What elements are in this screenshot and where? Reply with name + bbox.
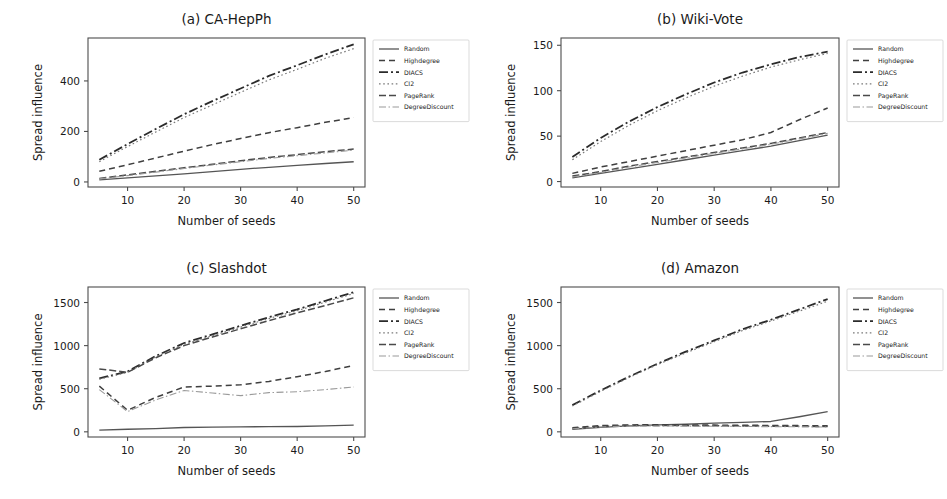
legend-label-random[interactable]: Random bbox=[404, 294, 430, 301]
x-tick-label: 20 bbox=[651, 194, 664, 206]
y-axis-label: Spread influence bbox=[504, 314, 518, 411]
plot-frame bbox=[561, 38, 839, 187]
x-axis-label: Number of seeds bbox=[651, 214, 749, 228]
y-tick-label: 1000 bbox=[53, 340, 80, 352]
y-tick-label: 0 bbox=[546, 426, 553, 438]
x-tick-label: 20 bbox=[177, 194, 190, 206]
y-tick-label: 400 bbox=[60, 75, 80, 87]
x-axis-label: Number of seeds bbox=[651, 464, 749, 478]
chart-panel-c: (c) Slashdot1020304050050010001500Number… bbox=[0, 249, 473, 499]
legend-label-degreediscount[interactable]: DegreeDiscount bbox=[878, 103, 928, 111]
legend-label-degreediscount[interactable]: DegreeDiscount bbox=[404, 352, 454, 360]
series-line-diacs bbox=[99, 292, 353, 378]
figure-grid: (a) CA-HepPh10203040500200400Number of s… bbox=[0, 0, 947, 499]
x-tick-label: 10 bbox=[594, 444, 607, 456]
legend-label-pagerank[interactable]: PageRank bbox=[404, 341, 435, 349]
x-axis-label: Number of seeds bbox=[177, 464, 275, 478]
y-tick-label: 0 bbox=[73, 176, 80, 188]
x-tick-label: 50 bbox=[347, 194, 360, 206]
y-tick-label: 1500 bbox=[53, 297, 80, 309]
series-line-pagerank bbox=[99, 298, 353, 373]
series-line-degreediscount bbox=[99, 387, 353, 412]
x-tick-label: 30 bbox=[234, 444, 247, 456]
legend-label-ci2[interactable]: CI2 bbox=[878, 329, 888, 336]
series-line-random bbox=[99, 425, 353, 430]
legend-label-diacs[interactable]: DIACS bbox=[878, 69, 897, 76]
chart-svg-c: (c) Slashdot1020304050050010001500Number… bbox=[0, 249, 473, 499]
x-tick-label: 40 bbox=[290, 444, 303, 456]
chart-panel-b: (b) Wiki-Vote1020304050050100150Number o… bbox=[473, 0, 947, 249]
panel-title: (d) Amazon bbox=[661, 260, 739, 276]
y-tick-label: 1500 bbox=[526, 297, 553, 309]
x-tick-label: 20 bbox=[177, 444, 190, 456]
y-tick-label: 1000 bbox=[526, 340, 553, 352]
legend-label-diacs[interactable]: DIACS bbox=[404, 318, 423, 325]
series-line-random bbox=[99, 162, 353, 180]
legend-label-pagerank[interactable]: PageRank bbox=[878, 341, 909, 349]
legend-label-degreediscount[interactable]: DegreeDiscount bbox=[878, 352, 928, 360]
legend-label-highdegree[interactable]: Highdegree bbox=[878, 57, 914, 65]
y-axis-label: Spread influence bbox=[504, 64, 518, 161]
x-tick-label: 30 bbox=[707, 194, 720, 206]
series-line-ci2 bbox=[572, 301, 827, 406]
legend-label-highdegree[interactable]: Highdegree bbox=[404, 306, 440, 314]
chart-panel-a: (a) CA-HepPh10203040500200400Number of s… bbox=[0, 0, 473, 249]
x-tick-label: 40 bbox=[764, 444, 777, 456]
panel-title: (c) Slashdot bbox=[186, 260, 267, 276]
x-tick-label: 50 bbox=[821, 444, 834, 456]
x-tick-label: 10 bbox=[594, 194, 607, 206]
legend-label-random[interactable]: Random bbox=[404, 45, 430, 52]
chart-panel-d: (d) Amazon1020304050050010001500Number o… bbox=[473, 249, 947, 499]
x-tick-label: 20 bbox=[651, 444, 664, 456]
x-tick-label: 50 bbox=[821, 194, 834, 206]
legend-label-highdegree[interactable]: Highdegree bbox=[878, 306, 914, 314]
y-axis-label: Spread influence bbox=[31, 64, 45, 161]
legend-label-ci2[interactable]: CI2 bbox=[878, 80, 888, 87]
y-tick-label: 500 bbox=[533, 383, 553, 395]
x-tick-label: 40 bbox=[764, 194, 777, 206]
x-axis-label: Number of seeds bbox=[177, 214, 275, 228]
y-tick-label: 200 bbox=[60, 125, 80, 137]
series-line-pagerank bbox=[572, 132, 827, 176]
y-tick-label: 500 bbox=[60, 383, 80, 395]
legend-label-random[interactable]: Random bbox=[878, 45, 904, 52]
legend-label-ci2[interactable]: CI2 bbox=[404, 80, 414, 87]
y-axis-label: Spread influence bbox=[31, 314, 45, 411]
series-line-highdegree bbox=[99, 365, 353, 410]
legend-label-ci2[interactable]: CI2 bbox=[404, 329, 414, 336]
x-tick-label: 50 bbox=[347, 444, 360, 456]
chart-svg-d: (d) Amazon1020304050050010001500Number o… bbox=[473, 249, 947, 499]
legend-label-pagerank[interactable]: PageRank bbox=[878, 92, 909, 100]
legend-label-degreediscount[interactable]: DegreeDiscount bbox=[404, 103, 454, 111]
series-line-diacs bbox=[99, 44, 353, 159]
series-line-ci2 bbox=[99, 49, 353, 162]
legend-label-pagerank[interactable]: PageRank bbox=[404, 92, 435, 100]
legend-label-random[interactable]: Random bbox=[878, 294, 904, 301]
chart-svg-a: (a) CA-HepPh10203040500200400Number of s… bbox=[0, 0, 473, 249]
x-tick-label: 10 bbox=[121, 194, 134, 206]
y-tick-label: 0 bbox=[546, 176, 553, 188]
plot-frame bbox=[88, 287, 365, 437]
legend-label-diacs[interactable]: DIACS bbox=[404, 69, 423, 76]
y-tick-label: 100 bbox=[533, 85, 553, 97]
x-tick-label: 30 bbox=[707, 444, 720, 456]
panel-title: (b) Wiki-Vote bbox=[657, 11, 743, 27]
x-tick-label: 10 bbox=[121, 444, 134, 456]
y-tick-label: 0 bbox=[73, 426, 80, 438]
legend-label-highdegree[interactable]: Highdegree bbox=[404, 57, 440, 65]
x-tick-label: 40 bbox=[290, 194, 303, 206]
panel-title: (a) CA-HepPh bbox=[181, 11, 271, 27]
series-line-ci2 bbox=[572, 53, 827, 159]
x-tick-label: 30 bbox=[234, 194, 247, 206]
y-tick-label: 50 bbox=[540, 130, 553, 142]
y-tick-label: 150 bbox=[533, 39, 553, 51]
legend-label-diacs[interactable]: DIACS bbox=[878, 318, 897, 325]
series-line-random bbox=[572, 135, 827, 178]
chart-svg-b: (b) Wiki-Vote1020304050050100150Number o… bbox=[473, 0, 947, 249]
